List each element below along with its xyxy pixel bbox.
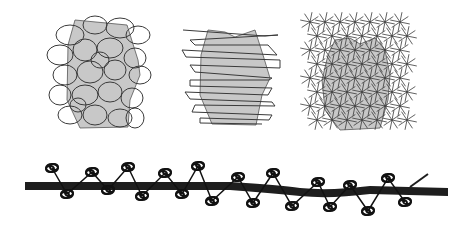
star-cross-icon: [300, 12, 320, 32]
star-cross-icon: [397, 82, 417, 102]
panel-star-lattice: [300, 12, 417, 130]
star-cross-icon: [300, 96, 320, 116]
star-cross-icon: [397, 110, 417, 130]
star-cross-icon: [397, 26, 417, 46]
panel-horizontal-wrap: [182, 30, 280, 125]
coiled-bar: [25, 162, 448, 215]
bar-branch: [410, 174, 428, 187]
star-cross-icon: [300, 68, 320, 88]
star-cross-icon: [397, 54, 417, 74]
panel-random-coil: [47, 16, 151, 128]
diagram-canvas: [0, 0, 471, 231]
star-cross-icon: [300, 40, 320, 60]
